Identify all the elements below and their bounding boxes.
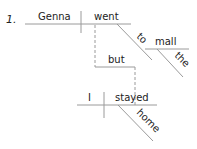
word-adverb: home xyxy=(135,107,163,135)
word-verb-2: stayed xyxy=(115,92,149,103)
sentence-diagram: 1. Genna went to mall the but I stayed h… xyxy=(0,0,197,149)
word-verb: went xyxy=(94,11,119,22)
word-object: mall xyxy=(155,36,176,47)
word-preposition: to xyxy=(135,31,150,46)
word-conjunction: but xyxy=(108,54,125,65)
word-article: the xyxy=(173,50,192,69)
word-subject-2: I xyxy=(88,92,91,103)
diagram-number: 1. xyxy=(6,13,17,26)
word-subject: Genna xyxy=(38,11,71,22)
